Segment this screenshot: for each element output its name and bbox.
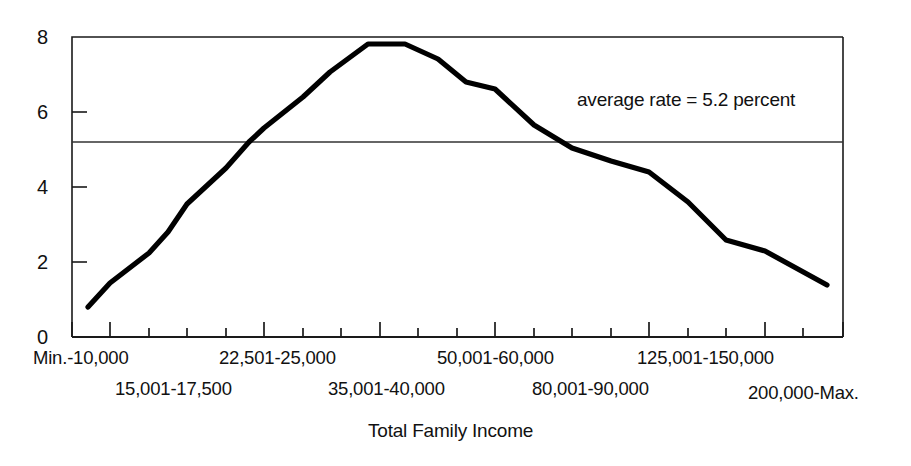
clipped-title-remnant [105, 0, 665, 5]
y-tick-label-2: 2 [18, 252, 48, 272]
x-tick-label-15001-17500: 15,001-17,500 [115, 380, 232, 399]
chart-container: 8 6 4 2 0 Min.-10,000 22,501-25,000 50,0… [0, 0, 911, 466]
x-tick-label-50001-60000: 50,001-60,000 [437, 349, 554, 368]
x-tick-label-min-10000: Min.-10,000 [33, 349, 129, 368]
y-tick-label-0: 0 [18, 327, 48, 347]
x-tick-label-80001-90000: 80,001-90,000 [532, 380, 649, 399]
x-axis-ticks [72, 322, 843, 337]
y-tick-label-8: 8 [18, 27, 48, 47]
x-tick-label-125001-150000: 125,001-150,000 [637, 349, 774, 368]
x-tick-label-22501-25000: 22,501-25,000 [219, 349, 336, 368]
plot-frame [72, 37, 843, 337]
y-tick-label-4: 4 [18, 177, 48, 197]
x-tick-label-35001-40000: 35,001-40,000 [328, 380, 445, 399]
data-series-line [88, 44, 827, 307]
y-axis-ticks [72, 112, 87, 262]
x-tick-label-200000-max: 200,000-Max. [748, 384, 859, 403]
y-tick-label-6: 6 [18, 102, 48, 122]
average-rate-annotation: average rate = 5.2 percent [577, 90, 795, 109]
x-axis-title: Total Family Income [368, 421, 533, 440]
